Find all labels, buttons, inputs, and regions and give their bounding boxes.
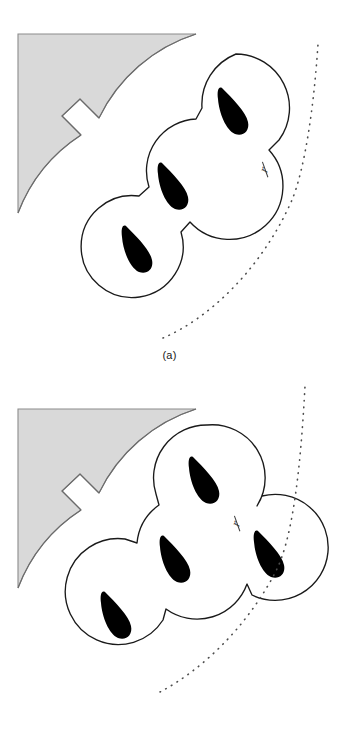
figure-panel-b: r (b) xyxy=(0,375,339,750)
panel-a-drawing: r xyxy=(0,0,339,340)
panel-a-caption: (a) xyxy=(0,349,339,361)
figure-root: r (a) r xyxy=(0,0,339,750)
panel-b-drawing: r xyxy=(0,375,339,715)
figure-panel-a: r (a) xyxy=(0,0,339,375)
